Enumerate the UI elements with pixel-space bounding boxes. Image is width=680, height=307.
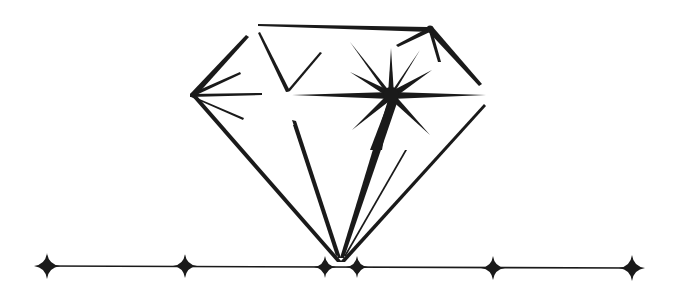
sparkle-icon <box>619 255 645 281</box>
sparkle-icon <box>34 253 60 279</box>
diamond-outline <box>190 24 486 262</box>
sparkle-icon <box>481 256 505 280</box>
sparkle-icon <box>314 256 336 278</box>
sparkle-icon <box>173 254 197 278</box>
left-corner-burst <box>190 72 262 120</box>
diamond-icon <box>0 0 680 307</box>
baseline <box>45 266 632 268</box>
v-mark <box>258 32 322 92</box>
sparkle-icon <box>346 256 368 278</box>
diamond-illustration <box>0 0 680 307</box>
